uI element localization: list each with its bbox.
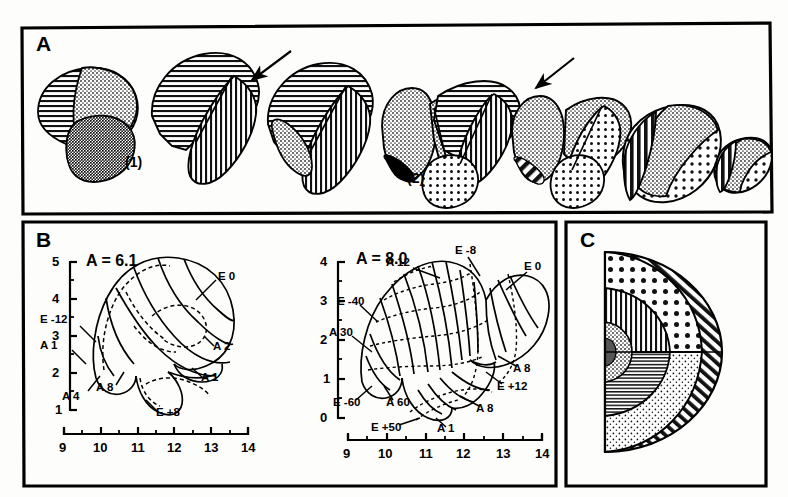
chart-left-x-axis	[64, 427, 248, 434]
chart-right-x-axis	[348, 433, 542, 440]
chart-left-ytick-4: 4	[52, 291, 59, 306]
chart-right-label-e0: E 0	[524, 260, 541, 272]
chart-right-label-a1: A 1	[437, 422, 454, 434]
chart-right-xtick-13: 13	[496, 446, 510, 461]
chart-left-label-a8: A 8	[96, 381, 113, 393]
chart-left-title: A = 6.1	[86, 252, 137, 270]
chart-right-xtick-11: 11	[419, 446, 433, 461]
chart-right-label-e-60: E -60	[333, 396, 361, 408]
chart-left-dashed	[103, 265, 210, 406]
chart-left-xtick-12: 12	[167, 440, 181, 455]
arrow-upper-left	[252, 51, 291, 80]
chart-right-label-e12: E +12	[497, 380, 527, 392]
chart-right-label-e-8: E -8	[455, 244, 476, 256]
chart-left-xtick-13: 13	[204, 440, 218, 455]
arrow-upper-right	[536, 58, 574, 88]
chart-left-label-e-12: E -12	[40, 313, 68, 325]
specimen-4	[382, 81, 520, 208]
chart-right-ytick-2: 2	[320, 332, 327, 347]
chart-right-label-a60: A 60	[386, 396, 410, 408]
chart-left-xtick-10: 10	[93, 440, 107, 455]
specimen-5	[512, 96, 631, 208]
chart-left-label-a1-lower: A 1	[201, 371, 218, 383]
chart-right-xtick-10: 10	[378, 446, 392, 461]
chart-right	[338, 257, 549, 440]
specimen-1	[38, 67, 138, 182]
chart-right-ytick-1: 1	[323, 371, 330, 386]
chart-left-ytick-1: 1	[55, 402, 62, 417]
specimen-mark-2: (2)	[407, 170, 424, 186]
panel-a-letter: A	[36, 32, 51, 56]
chart-left-label-a1-upper: A 1	[40, 339, 57, 351]
chart-right-label-a12: A 12	[386, 256, 410, 268]
chart-left-label-a2: A 2	[213, 340, 230, 352]
specimen-3	[268, 63, 373, 194]
chart-left-label-e0: E 0	[218, 270, 235, 282]
chart-right-xtick-12: 12	[456, 446, 470, 461]
panel-b-letter: B	[36, 228, 51, 252]
chart-right-label-a30: A 30	[329, 326, 353, 338]
chart-right-xtick-14: 14	[535, 446, 549, 461]
chart-left-ytick-2: 2	[52, 365, 59, 380]
chart-right-ytick-3: 3	[320, 293, 327, 308]
chart-left-label-e8: E +8	[156, 406, 180, 418]
chart-left-y-axis	[70, 262, 77, 410]
chart-right-label-a8-lower: A 8	[476, 402, 493, 414]
chart-right-label-e50: E +50	[371, 421, 401, 433]
chart-left-label-a4: A 4	[62, 390, 79, 402]
chart-right-label-a8-upper: A 8	[513, 362, 530, 374]
chart-right-ytick-4: 4	[320, 254, 327, 269]
chart-left-xtick-11: 11	[131, 440, 145, 455]
specimen-6	[623, 105, 721, 202]
figure-root: A B C (1) (2) A = 6.1 A = 8.0 5 4 3 2 1 …	[0, 0, 788, 497]
chart-left-xtick-9: 9	[59, 440, 66, 455]
chart-left-ytick-5: 5	[52, 254, 59, 269]
chart-right-xtick-9: 9	[343, 446, 350, 461]
panel-c-content	[605, 252, 722, 452]
chart-left-xtick-14: 14	[241, 440, 255, 455]
chart-right-y-axis	[338, 262, 345, 418]
specimen-mark-1: (1)	[125, 154, 142, 170]
panel-a-content	[38, 51, 772, 208]
specimen-2	[152, 53, 259, 184]
chart-right-ytick-0: 0	[320, 410, 327, 425]
panel-c-letter: C	[580, 228, 595, 252]
chart-right-label-e-40: E -40	[337, 295, 365, 307]
chart-left-body	[93, 257, 234, 415]
specimen-7	[714, 138, 772, 193]
